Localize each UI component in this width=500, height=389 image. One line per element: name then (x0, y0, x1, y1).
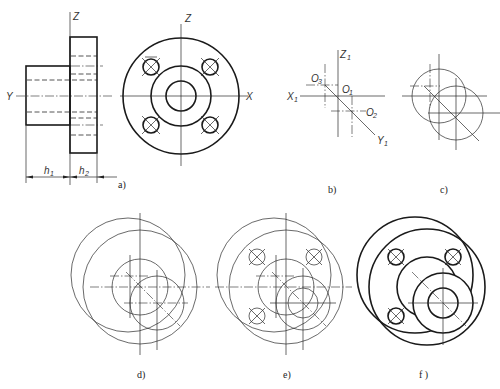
z1-subscript: 1 (347, 54, 351, 61)
o2-subscript: 2 (372, 112, 377, 119)
caption-c: c) (440, 184, 448, 196)
y-axis-label: Y (6, 91, 14, 102)
o3-subscript: 3 (318, 78, 322, 85)
caption-b: b) (328, 184, 336, 196)
arrowhead (63, 176, 70, 179)
caption-d: d) (137, 369, 145, 381)
o1-subscript: 1 (349, 89, 353, 96)
z-axis-label: Z (72, 11, 80, 22)
arrowhead (26, 176, 33, 179)
bolt-hole (142, 116, 160, 134)
panel-d-outlines: d) (71, 213, 210, 381)
panel-e-holes: e) (215, 213, 352, 381)
x-axis-label: X (245, 91, 253, 102)
caption-f: f ) (419, 369, 428, 381)
bolt-hole (201, 116, 219, 134)
panel-f-finished: f ) (357, 217, 485, 381)
h1-subscript: 1 (50, 170, 54, 177)
technical-drawing: Z Y h 1 h 2 Z X a) (0, 0, 500, 389)
bolt-hole (445, 249, 461, 265)
flange-back-circle (217, 218, 331, 332)
flange-back-circle (71, 218, 185, 332)
bolt-hole (388, 249, 404, 265)
bolt-hole (306, 249, 322, 265)
z1-label: Z (339, 49, 347, 60)
bolt-hole (249, 249, 265, 265)
z-axis-label: Z (184, 13, 192, 24)
x1-label: X (286, 91, 294, 102)
flange-outline (70, 37, 97, 153)
bolt-hole (142, 57, 160, 76)
caption-a: a) (118, 179, 126, 191)
panel-b-axes: Z 1 X 1 Y 1 O 1 O 2 O 3 b) (286, 49, 388, 196)
panel-a-side-view: Z X a) (118, 13, 253, 191)
h2-subscript: 2 (84, 170, 89, 177)
arrowhead (70, 176, 77, 179)
diagonal-axis (424, 86, 479, 141)
arrowhead (97, 176, 104, 179)
bolt-hole (201, 58, 219, 76)
bolt-hole (388, 308, 404, 324)
x1-subscript: 1 (294, 96, 298, 103)
bolt-hole (249, 308, 265, 324)
y1-subscript: 1 (384, 140, 388, 147)
boss-outline (26, 66, 70, 125)
caption-e: e) (283, 369, 291, 381)
panel-a-front-view: Z Y h 1 h 2 (6, 11, 117, 185)
panel-c-ellipses: c) (402, 54, 500, 196)
